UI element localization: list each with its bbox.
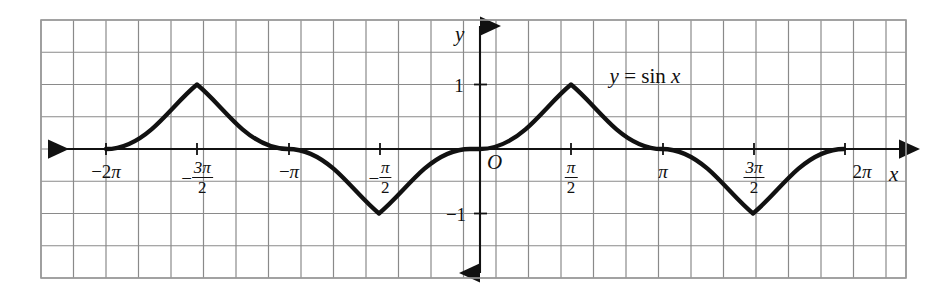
neg-3pi-2-fraction: 3π 2 <box>192 159 213 198</box>
x-axis-label: x <box>889 164 898 185</box>
x-tick-label-pi: π <box>658 162 668 181</box>
x-tick-label-neg-2pi: −2π <box>91 162 121 181</box>
origin-label: O <box>487 152 502 173</box>
two-pi-pi-symbol: π <box>862 161 872 182</box>
y-tick-label-negative-one: −1 <box>446 205 466 224</box>
neg-pi-2-sign: − <box>368 169 379 188</box>
three-pi-2-denominator: 2 <box>743 178 764 198</box>
sine-graph-figure: y x O 1 −1 y = sin x −2π − 3π 2 −π − π 2… <box>0 0 947 294</box>
x-tick-label-2pi: 2π <box>852 162 871 181</box>
plot-canvas <box>0 0 947 294</box>
pi-2-denominator: 2 <box>565 178 578 198</box>
neg-2pi-pi-symbol: π <box>111 161 121 182</box>
neg-2pi-sign: − <box>91 161 102 182</box>
neg-3pi-2-numerator: 3π <box>192 159 213 178</box>
x-tick-label-3pi-over-2: 3π 2 <box>743 160 764 199</box>
x-tick-label-neg-pi-over-2: − π 2 <box>368 160 391 199</box>
neg-3pi-2-denominator: 2 <box>192 178 213 198</box>
neg-2pi-numeral: 2 <box>102 161 112 182</box>
neg-pi-pi-symbol: π <box>290 161 300 182</box>
curve-equation-rhs: x <box>671 64 680 88</box>
curve-equation-lhs: y <box>610 64 619 88</box>
pi-2-fraction: π 2 <box>565 159 578 198</box>
curve-equation-mid: = sin <box>624 64 666 88</box>
x-tick-label-neg-pi: −π <box>279 162 299 181</box>
neg-pi-2-numerator: π <box>379 159 392 178</box>
neg-pi-sign: − <box>279 161 290 182</box>
three-pi-2-fraction: 3π 2 <box>743 159 764 198</box>
three-pi-2-numerator: 3π <box>743 159 764 178</box>
curve-equation-label: y = sin x <box>610 66 681 87</box>
y-tick-label-positive-one: 1 <box>454 76 464 95</box>
x-tick-label-neg-3pi-over-2: − 3π 2 <box>181 160 213 199</box>
pi-2-numerator: π <box>565 159 578 178</box>
neg-pi-2-fraction: π 2 <box>379 159 392 198</box>
x-tick-label-pi-over-2: π 2 <box>565 160 578 199</box>
neg-pi-2-denominator: 2 <box>379 178 392 198</box>
two-pi-numeral: 2 <box>852 161 862 182</box>
y-axis-label: y <box>455 24 464 45</box>
neg-3pi-2-sign: − <box>181 169 192 188</box>
pi-symbol: π <box>658 161 668 182</box>
